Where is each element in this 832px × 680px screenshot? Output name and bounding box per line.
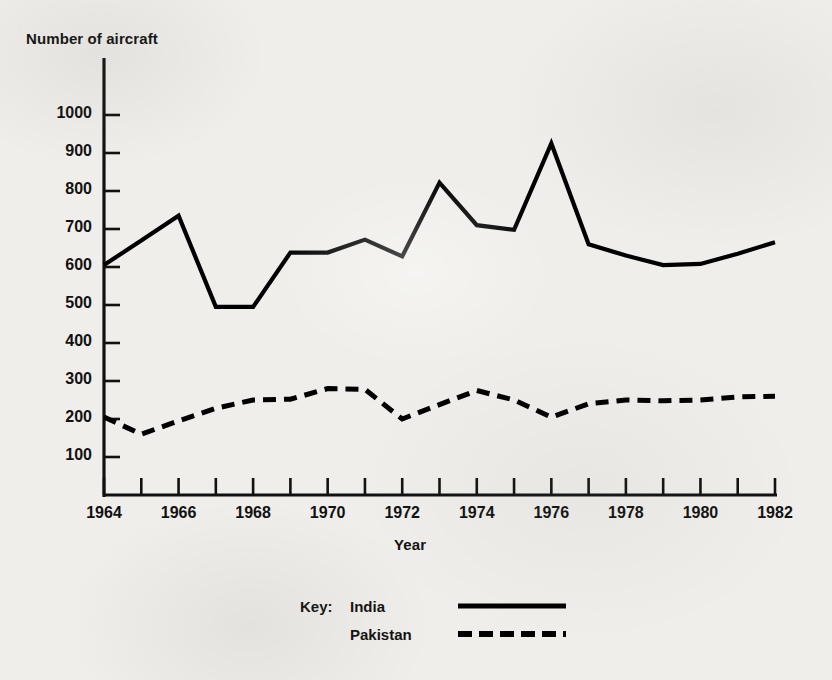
y-tick-label-1000: 1000 xyxy=(34,104,92,122)
chart-plot-area xyxy=(0,0,832,680)
x-tick-label-1964: 1964 xyxy=(74,504,134,522)
x-tick-label-1982: 1982 xyxy=(745,504,805,522)
y-tick-label-900: 900 xyxy=(34,142,92,160)
series-line-india xyxy=(104,144,775,307)
y-ticks-group xyxy=(104,115,120,457)
x-tick-label-1966: 1966 xyxy=(149,504,209,522)
line-chart-figure: Number of aircraft Year 1002003004005006… xyxy=(0,0,832,680)
y-tick-label-200: 200 xyxy=(34,408,92,426)
x-tick-label-1968: 1968 xyxy=(223,504,283,522)
y-tick-label-400: 400 xyxy=(34,332,92,350)
legend-label-india: India xyxy=(350,598,454,615)
x-tick-label-1978: 1978 xyxy=(596,504,656,522)
x-ticks-group xyxy=(104,478,775,495)
y-tick-label-100: 100 xyxy=(34,446,92,464)
legend-swatch-india xyxy=(454,599,570,613)
x-tick-label-1974: 1974 xyxy=(447,504,507,522)
chart-legend: Key:IndiaPakistan xyxy=(300,592,570,648)
y-tick-label-700: 700 xyxy=(34,218,92,236)
legend-row-pakistan: Pakistan xyxy=(300,620,570,648)
x-tick-label-1976: 1976 xyxy=(521,504,581,522)
legend-label-pakistan: Pakistan xyxy=(350,626,454,643)
x-tick-label-1970: 1970 xyxy=(298,504,358,522)
series-line-pakistan xyxy=(104,389,775,435)
y-tick-label-600: 600 xyxy=(34,256,92,274)
y-tick-label-300: 300 xyxy=(34,370,92,388)
y-tick-label-800: 800 xyxy=(34,180,92,198)
y-tick-label-500: 500 xyxy=(34,294,92,312)
data-series-group xyxy=(104,144,775,435)
legend-key-word: Key: xyxy=(300,598,350,615)
x-tick-label-1980: 1980 xyxy=(670,504,730,522)
x-tick-label-1972: 1972 xyxy=(372,504,432,522)
legend-swatch-pakistan xyxy=(454,627,570,641)
legend-row-india: Key:India xyxy=(300,592,570,620)
